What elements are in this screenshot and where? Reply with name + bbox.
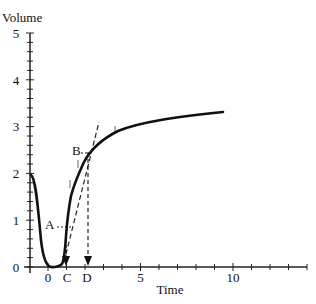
x-tick-label-5: 5 — [137, 270, 144, 285]
point-b-label: B — [72, 143, 81, 158]
point-d-label: D — [82, 270, 91, 285]
volume-curve — [31, 112, 223, 267]
x-tick-label-10: 10 — [227, 270, 240, 285]
volume-time-chart: 0 1 2 3 4 5 Volume 0 5 10 Time C D A B — [0, 0, 316, 304]
tangent-line — [64, 122, 99, 262]
point-a-label: A — [45, 217, 55, 232]
x-tick-label-0: 0 — [45, 270, 52, 285]
y-tick-label-3: 3 — [13, 119, 20, 134]
y-axis-title: Volume — [2, 10, 42, 25]
y-tick-label-2: 2 — [13, 166, 20, 181]
point-c-label: C — [63, 270, 72, 285]
y-tick-label-0: 0 — [13, 260, 20, 275]
y-tick-label-5: 5 — [13, 26, 20, 41]
y-tick-label-1: 1 — [13, 213, 20, 228]
y-tick-label-4: 4 — [13, 73, 20, 88]
x-axis-title: Time — [157, 282, 184, 297]
